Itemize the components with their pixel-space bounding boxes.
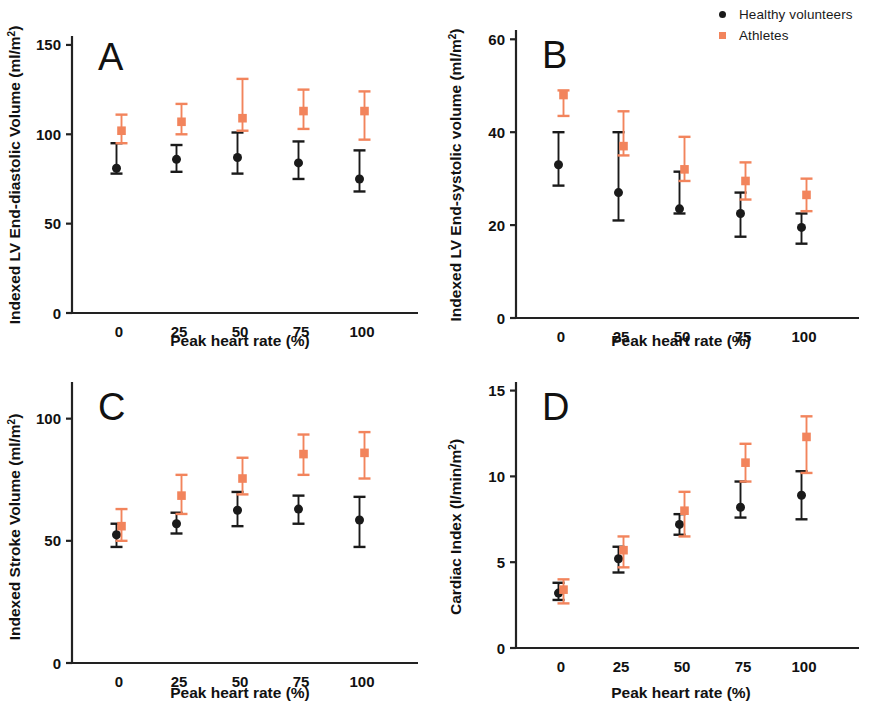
panel-d-plot: 0510150255075100DCardiac Index (l/min/m2… — [444, 352, 891, 704]
square-marker-icon — [299, 107, 308, 116]
x-tick-label: 100 — [349, 673, 374, 690]
panel-a-plot: 0501001500255075100AIndexed LV End-diast… — [0, 0, 450, 352]
circle-marker-icon — [172, 155, 181, 164]
circle-marker-icon — [112, 530, 121, 539]
square-marker-icon — [238, 474, 247, 483]
circle-marker-icon — [233, 506, 242, 515]
panel-letter: A — [98, 36, 124, 78]
panel-letter: B — [542, 34, 567, 76]
x-tick-label: 75 — [735, 658, 752, 675]
circle-marker-icon — [355, 516, 364, 525]
data-point — [796, 213, 808, 243]
circle-marker-icon — [675, 204, 684, 213]
data-point — [171, 145, 183, 172]
data-point — [735, 482, 747, 518]
data-point — [553, 132, 565, 185]
data-point — [237, 458, 249, 495]
panel-d: 0510150255075100DCardiac Index (l/min/m2… — [444, 352, 891, 704]
square-marker-icon — [299, 450, 308, 459]
circle-marker-icon — [172, 519, 181, 528]
y-axis-title: Cardiac Index (l/min/m2) — [447, 439, 464, 615]
square-marker-icon — [680, 506, 689, 515]
y-tick-label: 50 — [44, 215, 61, 232]
data-point — [298, 90, 310, 129]
circle-marker-icon — [294, 505, 303, 514]
y-tick-label: 60 — [488, 31, 505, 48]
figure-root: Healthy volunteers Athletes 050100150025… — [0, 0, 891, 704]
square-marker-icon — [117, 126, 126, 135]
circle-marker-icon — [294, 158, 303, 167]
circle-marker-icon — [675, 520, 684, 529]
square-marker-icon — [741, 458, 750, 467]
data-point — [237, 79, 249, 131]
data-point — [293, 496, 305, 524]
panel-letter: C — [98, 386, 125, 428]
panel-a: 0501001500255075100AIndexed LV End-diast… — [0, 0, 450, 352]
data-point — [111, 143, 123, 173]
data-point — [171, 513, 183, 534]
square-marker-icon — [238, 114, 247, 123]
circle-marker-icon — [112, 164, 121, 173]
square-marker-icon — [177, 491, 186, 500]
square-marker-icon — [802, 433, 811, 442]
square-marker-icon — [802, 191, 811, 200]
x-tick-label: 100 — [349, 323, 374, 340]
circle-marker-icon — [736, 503, 745, 512]
y-tick-label: 100 — [36, 410, 61, 427]
data-point — [359, 91, 371, 139]
y-tick-label: 100 — [36, 126, 61, 143]
data-point — [176, 475, 188, 514]
data-point — [740, 444, 752, 482]
y-tick-label: 5 — [497, 554, 505, 571]
y-tick-label: 40 — [488, 124, 505, 141]
y-tick-label: 15 — [488, 382, 505, 399]
panel-c: 0501000255075100CIndexed Stroke Volume (… — [0, 352, 450, 704]
data-point — [232, 492, 244, 526]
y-tick-label: 0 — [497, 310, 505, 327]
y-axis-title: Indexed LV End-systolic volume (ml/m2) — [447, 29, 464, 322]
circle-marker-icon — [797, 491, 806, 500]
y-axis-title: Indexed Stroke Volume (ml/m2) — [6, 414, 23, 641]
x-tick-label: 0 — [557, 328, 565, 345]
square-marker-icon — [680, 165, 689, 174]
square-marker-icon — [619, 142, 628, 151]
y-tick-label: 0 — [53, 305, 61, 322]
circle-marker-icon — [614, 554, 623, 563]
square-marker-icon — [559, 91, 568, 100]
panel-b-plot: 02040600255075100BIndexed LV End-systoli… — [444, 0, 891, 352]
panel-b: 02040600255075100BIndexed LV End-systoli… — [444, 0, 891, 352]
square-marker-icon — [559, 585, 568, 594]
data-point — [293, 141, 305, 179]
circle-marker-icon — [614, 188, 623, 197]
circle-marker-icon — [355, 174, 364, 183]
x-tick-label: 100 — [791, 328, 816, 345]
data-point — [354, 150, 366, 191]
data-point — [359, 432, 371, 478]
x-tick-label: 0 — [115, 323, 123, 340]
square-marker-icon — [177, 117, 186, 126]
x-tick-label: 25 — [613, 658, 630, 675]
y-tick-label: 150 — [36, 36, 61, 53]
data-point — [558, 90, 570, 116]
x-tick-label: 0 — [115, 673, 123, 690]
panel-letter: D — [542, 386, 569, 428]
circle-marker-icon — [233, 153, 242, 162]
y-tick-label: 10 — [488, 468, 505, 485]
y-tick-label: 20 — [488, 217, 505, 234]
x-axis-title: Peak heart rate (%) — [170, 332, 310, 349]
square-marker-icon — [117, 522, 126, 531]
circle-marker-icon — [736, 209, 745, 218]
x-axis-title: Peak heart rate (%) — [170, 684, 310, 701]
data-point — [801, 179, 813, 212]
x-tick-label: 0 — [557, 658, 565, 675]
y-tick-label: 0 — [497, 640, 505, 657]
square-marker-icon — [360, 107, 369, 116]
data-point — [354, 497, 366, 547]
circle-marker-icon — [797, 223, 806, 232]
square-marker-icon — [741, 177, 750, 186]
x-tick-label: 100 — [791, 658, 816, 675]
square-marker-icon — [360, 449, 369, 458]
data-point — [116, 115, 128, 144]
data-point — [232, 133, 244, 174]
data-point — [298, 435, 310, 475]
